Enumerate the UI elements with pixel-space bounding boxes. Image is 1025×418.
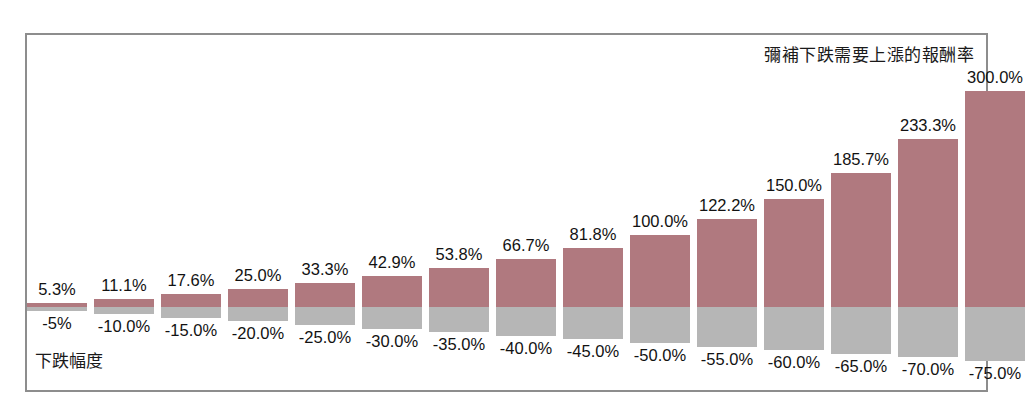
loss-value-label: -60.0% <box>764 353 824 372</box>
loss-value-label: -10.0% <box>94 317 154 336</box>
bar-segment-gain[interactable] <box>362 276 422 307</box>
bar-segment-gain[interactable] <box>630 235 690 307</box>
loss-value-label: -20.0% <box>228 324 288 343</box>
gain-value-label: 17.6% <box>161 271 221 290</box>
bar-group[interactable]: 25.0%-20.0% <box>228 35 288 390</box>
bar-segment-loss[interactable] <box>831 307 891 354</box>
bar-segment-loss[interactable] <box>697 307 757 347</box>
loss-value-label: -65.0% <box>831 357 891 376</box>
loss-value-label: -5% <box>27 314 87 333</box>
plot-frame: 彌補下跌需要上漲的報酬率 下跌幅度 5.3%-5%11.1%-10.0%17.6… <box>25 33 988 392</box>
bar-segment-gain[interactable] <box>429 268 489 307</box>
bar-segment-gain[interactable] <box>965 91 1025 307</box>
gain-value-label: 53.8% <box>429 245 489 264</box>
bar-group[interactable]: 17.6%-15.0% <box>161 35 221 390</box>
bar-segment-gain[interactable] <box>764 199 824 307</box>
bar-segment-loss[interactable] <box>94 307 154 314</box>
bar-segment-gain[interactable] <box>831 173 891 307</box>
loss-value-label: -70.0% <box>898 360 958 379</box>
gain-value-label: 25.0% <box>228 266 288 285</box>
bar-group[interactable]: 5.3%-5% <box>27 35 87 390</box>
bar-segment-loss[interactable] <box>764 307 824 350</box>
gain-value-label: 233.3% <box>898 116 958 135</box>
bar-segment-loss[interactable] <box>295 307 355 325</box>
bar-segment-loss[interactable] <box>161 307 221 318</box>
gain-value-label: 81.8% <box>563 225 623 244</box>
gain-value-label: 33.3% <box>295 260 355 279</box>
gain-value-label: 122.2% <box>697 196 757 215</box>
loss-value-label: -40.0% <box>496 339 556 358</box>
bar-group[interactable]: 33.3%-25.0% <box>295 35 355 390</box>
gain-value-label: 100.0% <box>630 212 690 231</box>
bar-segment-loss[interactable] <box>898 307 958 357</box>
bar-segment-loss[interactable] <box>965 307 1025 361</box>
gain-value-label: 185.7% <box>831 150 891 169</box>
bar-segment-gain[interactable] <box>697 219 757 307</box>
loss-value-label: -45.0% <box>563 342 623 361</box>
bar-segment-gain[interactable] <box>898 139 958 307</box>
bar-segment-gain[interactable] <box>295 283 355 307</box>
loss-value-label: -30.0% <box>362 332 422 351</box>
bar-segment-loss[interactable] <box>429 307 489 332</box>
loss-value-label: -50.0% <box>630 346 690 365</box>
bar-group[interactable]: 185.7%-65.0% <box>831 35 891 390</box>
bar-segment-gain[interactable] <box>94 299 154 307</box>
bar-segment-loss[interactable] <box>362 307 422 329</box>
bar-segment-loss[interactable] <box>27 307 87 311</box>
bar-segment-loss[interactable] <box>228 307 288 321</box>
bar-segment-gain[interactable] <box>563 248 623 307</box>
bar-segment-gain[interactable] <box>161 294 221 307</box>
loss-value-label: -15.0% <box>161 321 221 340</box>
loss-value-label: -55.0% <box>697 350 757 369</box>
bar-group[interactable]: 53.8%-35.0% <box>429 35 489 390</box>
bar-group[interactable]: 81.8%-45.0% <box>563 35 623 390</box>
bar-segment-gain[interactable] <box>496 259 556 307</box>
bar-group[interactable]: 11.1%-10.0% <box>94 35 154 390</box>
bar-group[interactable]: 100.0%-50.0% <box>630 35 690 390</box>
loss-value-label: -75.0% <box>965 364 1025 383</box>
bar-group[interactable]: 233.3%-70.0% <box>898 35 958 390</box>
bars-layer: 5.3%-5%11.1%-10.0%17.6%-15.0%25.0%-20.0%… <box>27 35 986 390</box>
gain-value-label: 66.7% <box>496 236 556 255</box>
bar-segment-loss[interactable] <box>563 307 623 339</box>
bar-segment-loss[interactable] <box>630 307 690 343</box>
gain-value-label: 42.9% <box>362 253 422 272</box>
gain-value-label: 5.3% <box>27 280 87 299</box>
bar-group[interactable]: 42.9%-30.0% <box>362 35 422 390</box>
bar-group[interactable]: 150.0%-60.0% <box>764 35 824 390</box>
loss-value-label: -25.0% <box>295 328 355 347</box>
gain-value-label: 11.1% <box>94 276 154 295</box>
bar-group[interactable]: 122.2%-55.0% <box>697 35 757 390</box>
bar-group[interactable]: 300.0%-75.0% <box>965 35 1025 390</box>
gain-value-label: 150.0% <box>764 176 824 195</box>
bar-segment-loss[interactable] <box>496 307 556 336</box>
gain-value-label: 300.0% <box>965 68 1025 87</box>
bar-segment-gain[interactable] <box>228 289 288 307</box>
loss-value-label: -35.0% <box>429 335 489 354</box>
bar-group[interactable]: 66.7%-40.0% <box>496 35 556 390</box>
